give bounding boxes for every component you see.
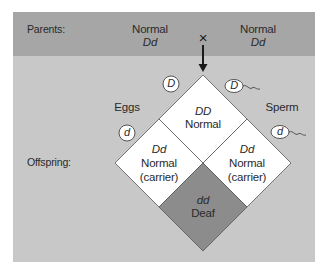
parent-left-phenotype: Normal xyxy=(120,23,180,36)
offspring-right-note: (carrier) xyxy=(217,171,277,184)
offspring-top-genotype: DD xyxy=(173,105,233,118)
offspring-right-genotype: Dd xyxy=(217,143,277,156)
offspring-left-phenotype: Normal xyxy=(129,157,189,170)
offspring-label: Offspring: xyxy=(27,156,71,169)
offspring-right-phenotype: Normal xyxy=(217,157,277,170)
sperm-allele-2: d xyxy=(272,125,288,138)
egg-allele-2: d xyxy=(119,126,135,139)
parent-left-genotype: Dd xyxy=(120,36,180,49)
eggs-label: Eggs xyxy=(110,101,144,114)
cross-arrow-icon xyxy=(199,45,208,72)
egg-allele-1: D xyxy=(163,77,179,90)
offspring-top-phenotype: Normal xyxy=(173,118,233,131)
sperm-label: Sperm xyxy=(262,101,302,114)
offspring-left-genotype: Dd xyxy=(129,143,189,156)
parents-label: Parents: xyxy=(27,23,65,36)
sperm-allele-1: D xyxy=(226,79,242,92)
cross-symbol: × xyxy=(195,30,211,45)
offspring-left-note: (carrier) xyxy=(129,171,189,184)
parent-right-genotype: Dd xyxy=(228,36,288,49)
offspring-bottom-phenotype: Deaf xyxy=(173,207,233,220)
parent-right-phenotype: Normal xyxy=(228,23,288,36)
offspring-bottom-genotype: dd xyxy=(173,194,233,207)
